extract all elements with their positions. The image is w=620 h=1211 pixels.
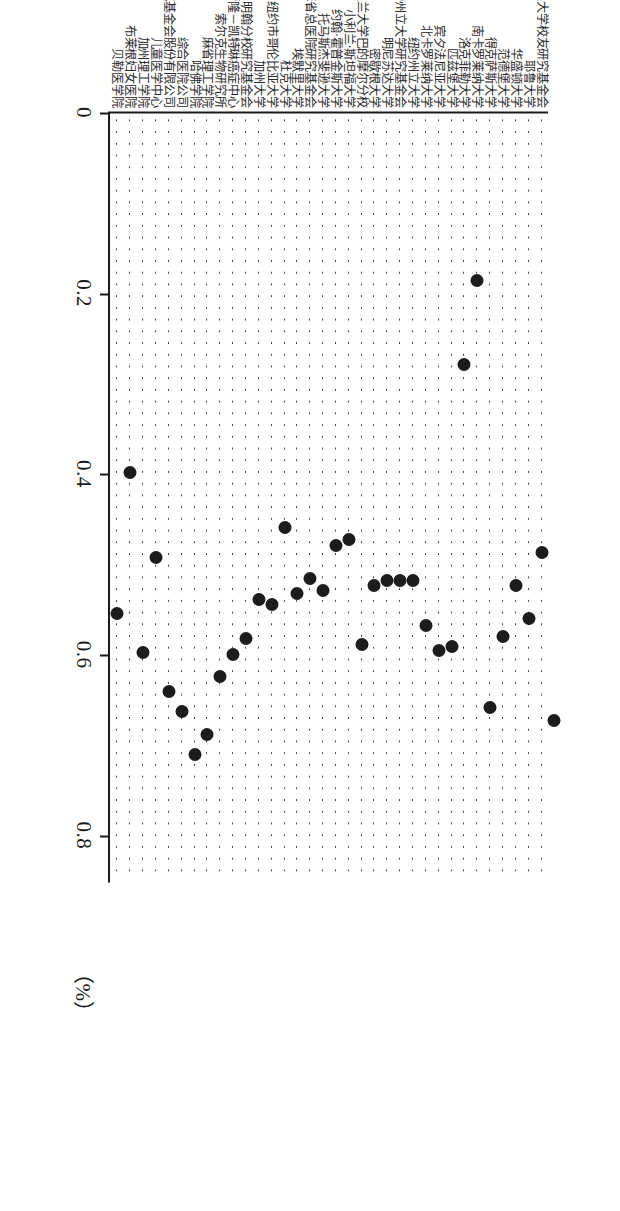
category-label: 布莱根妇女医院 [124,24,136,107]
figure-canvas: 00.20.40.60.8 （%） 贝勒医学院布莱根妇女医院加州理工学院儿童医学… [0,0,620,1211]
category-label: 耶鲁大学 [523,60,535,107]
category-label: 托马斯杰斐逊大学 [317,13,329,107]
category-label: 纪念斯隆－凯特琳癌症中心 [227,0,239,107]
category-label: 洛克菲勒大学 [458,36,470,107]
category-labels: 贝勒医学院布莱根妇女医院加州理工学院儿童医学中心康奈尔大学研究基金会股份有限公司… [0,0,620,1211]
category-label: 加州大学 [253,60,265,107]
category-label: 华盛顿大学 [510,48,522,107]
category-label: 加州理工学院 [137,36,149,107]
category-label: 综合医院公司 [176,36,188,107]
category-label: 麻省总医院研究基金会 [304,0,316,107]
category-label: 麻省理工学院 [201,36,213,107]
rotated-figure: 00.20.40.60.8 （%） 贝勒医学院布莱根妇女医院加州理工学院儿童医学… [0,0,620,1211]
category-label: 约翰·霍普金斯大学 [330,9,342,107]
category-label: 纽约州立大学 [407,36,419,107]
category-label: 索尔克生物研究所 [214,13,226,107]
category-label: 得克萨斯大学 [484,36,496,107]
category-label: 范德堡大学 [497,48,509,107]
category-label: 小利兰·斯坦福大学 [343,9,355,107]
category-label: 阿拉巴马大学伯明翰分校研究基金会 [240,0,252,107]
category-label: 匹兹堡大学 [446,48,458,107]
category-label: 儿童医学中心 [150,36,162,107]
category-label: 宾夕法尼亚大学 [433,24,445,107]
category-label: 纽约市哥伦比亚大学 [266,1,278,107]
category-label: 北卡罗莱纳大学 [420,24,432,107]
category-label: 南卡罗莱纳大学 [471,24,483,107]
category-label: 威斯康星大学校友研究基金会 [536,0,548,107]
category-label: 哈佛学院 [189,60,201,107]
category-label: 康奈尔大学研究基金会股份有限公司 [163,0,175,107]
category-label: 密歇根大学 [369,48,381,107]
category-label: 埃默里大学 [291,48,303,107]
category-label: 杜克大学 [279,60,291,107]
category-label: 明尼苏达大学 [381,36,393,107]
category-label: 贝勒医学院 [111,48,123,107]
category-label: 纽约州立大学研究基金会 [394,0,406,107]
category-label: 马里兰大学巴的摩尔分校 [356,0,368,107]
